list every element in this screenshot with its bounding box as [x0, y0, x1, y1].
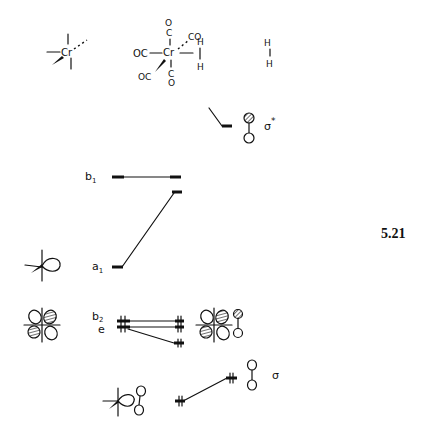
ligand-left-oc: OC — [133, 48, 148, 59]
ligand-lower-left-oc: OC — [138, 72, 151, 82]
a1-hybrid-orbital-icon — [25, 250, 60, 281]
ligand-bottom-o: O — [168, 78, 175, 88]
d-orbital-left-icon — [24, 308, 60, 342]
e-label: e — [98, 323, 105, 336]
figure-number: 5.21 — [381, 226, 406, 241]
b1-level: b1 — [85, 170, 181, 185]
ligand-top-o: O — [165, 18, 172, 28]
a1-level: a1 — [92, 192, 182, 275]
ligand-top-c: C — [166, 28, 172, 38]
mo-interaction-diagram: Cr O C OC Cr CO H H OC C O H H σ* b1 — [0, 0, 440, 435]
sigma-star-orbital-lobe-top — [244, 113, 254, 123]
h2-atom-top: H — [264, 38, 271, 48]
metal-label-complex: Cr — [163, 47, 175, 58]
crco5-fragment-structure: Cr — [47, 34, 87, 69]
h2-structure: H H — [264, 38, 273, 69]
sigma-star-level: σ* — [209, 108, 276, 143]
b2-label: b2 — [92, 310, 103, 324]
sigma-star-orbital-lobe-bottom — [244, 133, 254, 143]
sigma-level: σ — [175, 360, 279, 406]
sigma-orbital-lobe-top — [248, 360, 257, 370]
complex-structure: O C OC Cr CO H H OC C O — [133, 18, 204, 88]
sigma-star-label: σ* — [264, 116, 276, 133]
d-orbital-right-icon — [196, 308, 243, 342]
b1-label: b1 — [85, 170, 96, 185]
hydride-top: H — [197, 37, 204, 47]
sigma-label: σ — [272, 369, 279, 382]
b2-e-levels: b2 e — [92, 310, 184, 347]
hydride-bottom: H — [197, 62, 204, 72]
metal-label-fragment: Cr — [61, 47, 73, 58]
sigma-bonding-orbital-icon — [103, 386, 146, 416]
h2-atom-bottom: H — [266, 59, 273, 69]
a1-label: a1 — [92, 260, 103, 275]
sigma-orbital-lobe-bottom — [248, 380, 257, 390]
